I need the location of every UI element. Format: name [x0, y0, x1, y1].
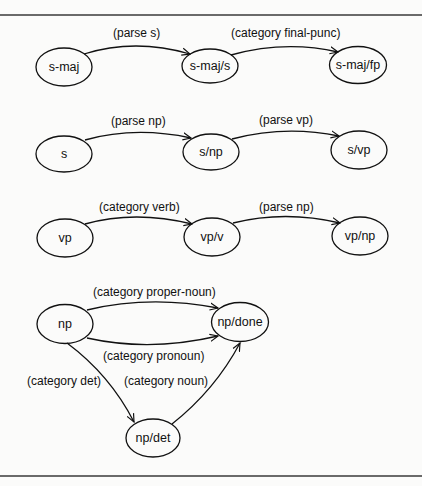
- node-label: vp/v: [201, 230, 225, 244]
- network-vp: (category verb) (parse np) vp vp/v vp/np: [37, 200, 388, 257]
- edge-label: (parse np): [259, 200, 314, 214]
- edge-vp-v-to-vp-np: (parse np): [233, 200, 340, 223]
- edge-label: (category verb): [99, 200, 180, 214]
- node-s-maj-s: s-maj/s: [182, 49, 238, 83]
- network-s-maj: (parse s) (category final-punc) s-maj s-…: [36, 26, 387, 86]
- network-s: (parse np) (parse vp) s s/np s/vp: [36, 113, 387, 172]
- edge-label: (category final-punc): [231, 26, 340, 40]
- node-label: s: [61, 147, 67, 161]
- edge-vp-to-vp-v: (category verb): [85, 200, 192, 224]
- node-label: vp/np: [345, 229, 376, 243]
- edge-s-np-to-s-vp: (parse vp): [232, 113, 339, 139]
- edge-s-maj-to-s-maj-s: (parse s): [84, 26, 190, 54]
- node-s-maj-fp: s-maj/fp: [330, 47, 387, 84]
- node-np: np: [37, 305, 93, 344]
- node-s: s: [36, 136, 92, 172]
- node-label: s-maj: [49, 60, 80, 74]
- node-label: s/vp: [348, 143, 371, 157]
- edge-np-to-np-done-proper-noun: (category proper-noun): [87, 285, 218, 310]
- node-vp-v: vp/v: [184, 218, 240, 256]
- edge-label: (category proper-noun): [93, 285, 216, 299]
- edge-label: (parse np): [111, 114, 166, 128]
- edge-s-maj-s-to-s-maj-fp: (category final-punc): [231, 26, 340, 55]
- node-np-done: np/done: [212, 303, 269, 342]
- edge-label: (category noun): [124, 374, 208, 388]
- node-vp-np: vp/np: [332, 217, 388, 255]
- node-np-det: np/det: [126, 419, 180, 457]
- node-vp: vp: [37, 219, 93, 257]
- edge-label: (category pronoun): [103, 349, 204, 363]
- edge-label: (category det): [27, 374, 101, 388]
- node-label: s-maj/fp: [336, 58, 381, 72]
- node-s-vp: s/vp: [331, 131, 387, 169]
- node-label: s-maj/s: [190, 59, 230, 73]
- node-s-np: s/np: [183, 134, 239, 170]
- node-label: s/np: [199, 145, 223, 159]
- edge-np-to-np-done-pronoun: (category pronoun): [87, 336, 218, 363]
- network-np: (category proper-noun) (category pronoun…: [27, 285, 269, 457]
- transition-network-diagram: (parse s) (category final-punc) s-maj s-…: [0, 0, 422, 486]
- node-label: np/det: [136, 431, 171, 445]
- node-label: vp: [58, 231, 71, 245]
- edge-s-to-s-np: (parse np): [85, 114, 191, 140]
- node-label: np: [58, 317, 72, 331]
- node-s-maj: s-maj: [36, 48, 92, 86]
- node-label: np/done: [217, 315, 262, 329]
- edge-label: (parse s): [113, 26, 160, 40]
- edge-label: (parse vp): [259, 113, 313, 127]
